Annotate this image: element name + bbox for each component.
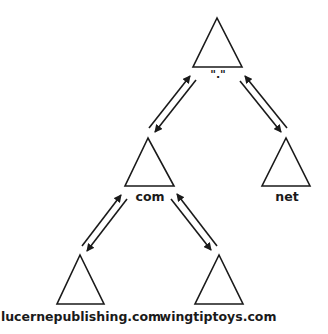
edges-layer	[82, 76, 287, 251]
node-root: "."	[193, 18, 242, 81]
arrow-icon	[149, 76, 190, 128]
triangle-icon	[262, 138, 310, 186]
edge-lucernepublishing-com	[82, 195, 127, 251]
node-label: "."	[210, 68, 226, 81]
node-com: com	[125, 138, 174, 204]
nodes-layer: "."comnetlucernepublishing.comwingtiptoy…	[1, 18, 310, 324]
node-label: wingtiptoys.com	[160, 309, 277, 324]
arrow-icon	[171, 199, 211, 250]
node-label: net	[275, 189, 298, 204]
arrow-icon	[155, 80, 196, 132]
node-net: net	[262, 138, 310, 204]
arrow-icon	[177, 194, 217, 246]
triangle-icon	[193, 18, 242, 67]
edge-com-root	[149, 76, 196, 132]
node-label: lucernepublishing.com	[1, 309, 161, 324]
dns-hierarchy-diagram: "."comnetlucernepublishing.comwingtiptoy…	[0, 0, 328, 334]
triangle-icon	[57, 255, 104, 304]
triangle-icon	[125, 138, 174, 186]
arrow-icon	[82, 195, 121, 246]
arrow-icon	[87, 199, 127, 251]
node-wingtiptoys: wingtiptoys.com	[160, 255, 277, 324]
edge-wingtiptoys-com	[171, 194, 217, 250]
arrow-icon	[245, 76, 287, 128]
node-label: com	[135, 189, 164, 204]
node-lucernepublishing: lucernepublishing.com	[1, 255, 161, 324]
edge-net-root	[240, 76, 287, 132]
triangle-icon	[195, 255, 243, 304]
arrow-icon	[240, 81, 281, 132]
